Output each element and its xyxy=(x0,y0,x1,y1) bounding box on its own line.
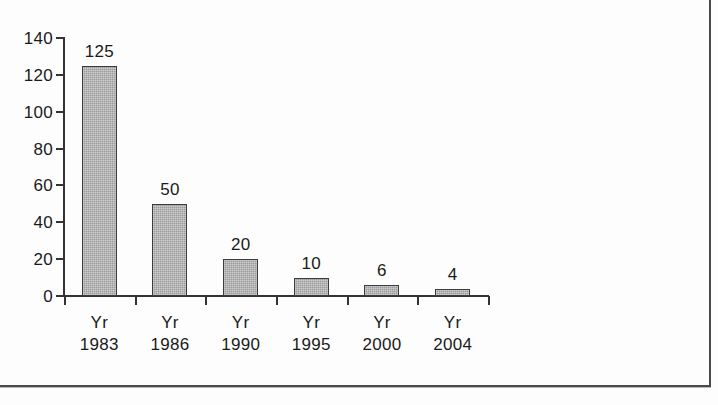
y-axis-tick-mark xyxy=(56,111,64,113)
y-axis-tick-label: 80 xyxy=(33,140,53,157)
y-axis-tick-label: 20 xyxy=(33,251,53,268)
y-axis-tick-label: 140 xyxy=(24,30,53,47)
y-axis-tick-mark xyxy=(56,74,64,76)
x-axis-category-label-line1: Yr xyxy=(362,312,401,334)
bar-value-label: 4 xyxy=(448,266,458,283)
x-axis-category-label: Yr1986 xyxy=(150,312,189,356)
bar-group[interactable]: 4 xyxy=(417,266,488,296)
x-axis-category-label-line1: Yr xyxy=(150,312,189,334)
y-axis-tick-mark xyxy=(56,148,64,150)
bar-group[interactable]: 6 xyxy=(347,262,418,296)
bar-value-label: 50 xyxy=(160,181,180,198)
x-axis-category-label-line2: 1983 xyxy=(80,334,119,356)
y-axis-tick-label: 0 xyxy=(43,288,53,305)
y-axis-tick-label: 40 xyxy=(33,214,53,231)
x-axis-category-label: Yr2004 xyxy=(433,312,472,356)
y-axis-tick-mark xyxy=(56,184,64,186)
scanned-page-frame: 020406080100120140 12550201064 Yr1983Yr1… xyxy=(0,0,718,405)
bar[interactable] xyxy=(364,285,399,296)
x-axis-tick-mark xyxy=(417,296,419,305)
y-axis-tick-mark xyxy=(56,295,64,297)
y-axis-tick-label: 100 xyxy=(24,103,53,120)
x-axis-category-label-line1: Yr xyxy=(221,312,260,334)
x-axis-tick-mark xyxy=(64,296,66,305)
x-axis-category-label-line2: 2004 xyxy=(433,334,472,356)
bar-value-label: 20 xyxy=(231,236,251,253)
bar[interactable] xyxy=(294,278,329,296)
y-axis-tick-mark xyxy=(56,258,64,260)
x-axis-category-label-line2: 1986 xyxy=(150,334,189,356)
bar-group[interactable]: 10 xyxy=(276,255,347,296)
bar-group[interactable]: 20 xyxy=(205,236,276,296)
bar-group[interactable]: 50 xyxy=(135,181,206,296)
bar-value-label: 6 xyxy=(377,262,387,279)
bar[interactable] xyxy=(435,289,470,296)
bar[interactable] xyxy=(223,259,258,296)
x-axis-tick-mark xyxy=(276,296,278,305)
x-axis-category-label-line2: 1995 xyxy=(292,334,331,356)
x-axis-tick-mark xyxy=(347,296,349,305)
bar-group[interactable]: 125 xyxy=(64,43,135,296)
bar[interactable] xyxy=(152,204,187,296)
y-axis-tick-label: 120 xyxy=(24,66,53,83)
x-axis-tick-mark xyxy=(205,296,207,305)
bar-value-label: 125 xyxy=(85,43,114,60)
x-axis-category-label: Yr1983 xyxy=(80,312,119,356)
x-axis-tick-mark xyxy=(488,296,490,305)
x-axis-category-label: Yr1995 xyxy=(292,312,331,356)
x-axis-category-label-line2: 2000 xyxy=(362,334,401,356)
x-axis-category-label: Yr1990 xyxy=(221,312,260,356)
plot-area: 020406080100120140 12550201064 xyxy=(64,38,488,296)
bar-value-label: 10 xyxy=(302,255,322,272)
bar[interactable] xyxy=(82,66,117,296)
x-axis-tick-mark xyxy=(135,296,137,305)
x-axis-category-label: Yr2000 xyxy=(362,312,401,356)
x-axis-category-label-line2: 1990 xyxy=(221,334,260,356)
x-axis-category-label-line1: Yr xyxy=(292,312,331,334)
y-axis-tick-label: 60 xyxy=(33,177,53,194)
x-axis-category-label-line1: Yr xyxy=(433,312,472,334)
y-axis-tick-mark xyxy=(56,221,64,223)
bar-chart-figure: 020406080100120140 12550201064 Yr1983Yr1… xyxy=(0,0,718,380)
page-border-bottom-shadow xyxy=(0,387,711,388)
x-axis-category-label-line1: Yr xyxy=(80,312,119,334)
y-axis-tick-mark xyxy=(56,37,64,39)
